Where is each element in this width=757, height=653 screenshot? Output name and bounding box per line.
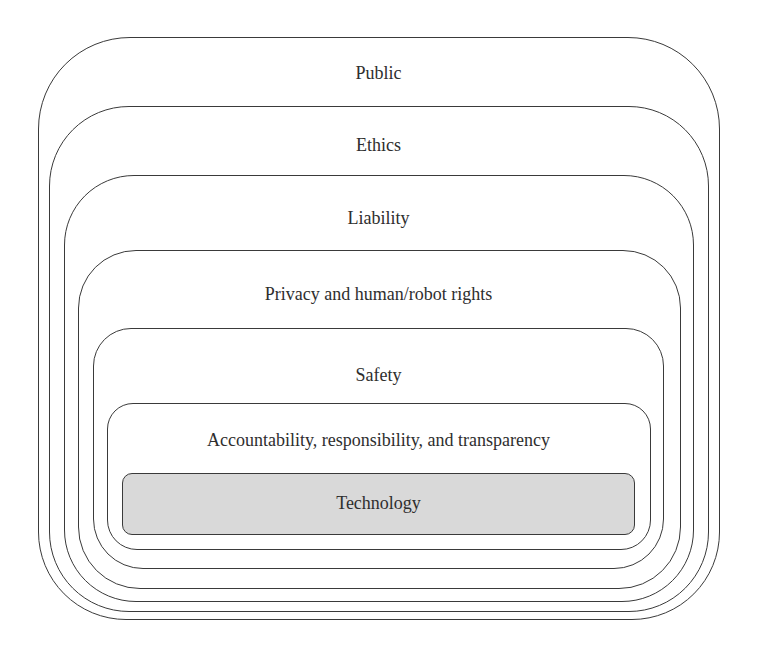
label-public: Public bbox=[0, 63, 757, 83]
label-ethics: Ethics bbox=[0, 135, 757, 155]
label-technology: Technology bbox=[0, 493, 757, 513]
label-safety: Safety bbox=[0, 365, 757, 385]
label-accountability: Accountability, responsibility, and tran… bbox=[0, 430, 757, 450]
label-privacy-rights: Privacy and human/robot rights bbox=[0, 284, 757, 304]
label-liability: Liability bbox=[0, 208, 757, 228]
